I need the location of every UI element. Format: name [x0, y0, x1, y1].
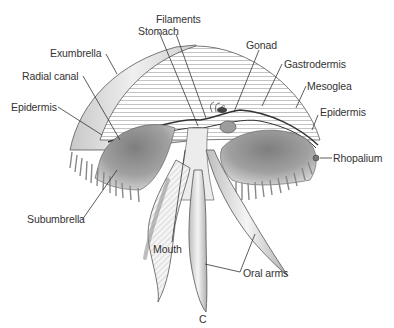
- label-rhopalium: Rhopalium: [333, 153, 382, 164]
- label-exumbrella: Exumbrella: [50, 48, 102, 59]
- label-gonad: Gonad: [246, 40, 277, 51]
- label-epidermis-left: Epidermis: [11, 102, 57, 113]
- label-gastrodermis: Gastrodermis: [284, 59, 346, 70]
- oral-arm-center: [189, 170, 207, 312]
- subumbrella-right: [220, 130, 316, 185]
- label-mesoglea: Mesoglea: [307, 81, 352, 92]
- label-oral-arms: Oral arms: [243, 268, 288, 279]
- label-filaments: Filaments: [156, 14, 201, 25]
- label-mouth: Mouth: [153, 244, 182, 255]
- label-subumbrella: Subumbrella: [27, 214, 85, 225]
- gonad-shape: [220, 121, 236, 133]
- rhopalium-shape: [313, 155, 319, 161]
- label-epidermis-right: Epidermis: [320, 107, 366, 118]
- label-radial-canal: Radial canal: [22, 71, 79, 82]
- panel-letter: C: [199, 314, 206, 325]
- label-stomach: Stomach: [138, 26, 179, 37]
